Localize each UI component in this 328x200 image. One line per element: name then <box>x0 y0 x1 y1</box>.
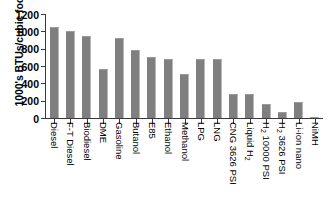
bar-series <box>46 14 323 118</box>
bar <box>66 31 75 118</box>
x-tick-label: Ethanol <box>163 122 173 154</box>
x-label-slot: Butanol <box>127 122 143 198</box>
bar-slot <box>242 14 258 118</box>
bar <box>196 59 205 118</box>
x-label-slot: NiMH <box>307 122 323 198</box>
bar-slot <box>95 14 111 118</box>
x-tick-label: Gasoline <box>115 122 125 160</box>
y-tick-label: 0 <box>33 114 39 125</box>
bar-slot <box>79 14 95 118</box>
bar <box>131 50 140 118</box>
y-tick-label: 400 <box>21 79 39 90</box>
bar <box>245 94 254 118</box>
bar-slot <box>46 14 62 118</box>
y-tick-mark <box>41 66 45 67</box>
x-tick-label: Methanol <box>180 122 190 161</box>
bar-slot <box>160 14 176 118</box>
x-tick-label: Butanol <box>131 122 141 154</box>
y-tick-label: 200 <box>21 96 39 107</box>
bar-slot <box>290 14 306 118</box>
x-label-slot: CNG 3626 PSI <box>225 122 241 198</box>
x-tick-label: E85 <box>147 122 157 139</box>
bar-slot <box>193 14 209 118</box>
bar-slot <box>144 14 160 118</box>
y-tick-mark <box>41 31 45 32</box>
x-label-slot: Ethanol <box>160 122 176 198</box>
bar-slot <box>307 14 323 118</box>
x-label-slot: Gasoline <box>111 122 127 198</box>
x-tick-label: NiMH <box>310 122 320 146</box>
bar-slot <box>209 14 225 118</box>
x-tick-label: H2 3626 PSI <box>278 122 288 175</box>
bar <box>99 69 108 118</box>
x-label-slot: Biodiesel <box>79 122 95 198</box>
x-tick-label: DME <box>98 122 108 143</box>
x-tick-label: LPG <box>196 122 206 141</box>
y-tick-label: 1000 <box>16 27 39 38</box>
y-tick-mark <box>41 49 45 50</box>
x-label-slot: F-T Diesel <box>62 122 78 198</box>
x-label-slot: H2 3626 PSI <box>274 122 290 198</box>
y-tick-mark <box>41 101 45 102</box>
bar <box>278 112 287 118</box>
y-tick-label: 800 <box>21 44 39 55</box>
bar <box>82 36 91 118</box>
x-label-slot: Liquid H2 <box>242 122 258 198</box>
y-tick-label: 1200 <box>16 10 39 21</box>
bar <box>310 117 319 118</box>
x-label-slot: H2 10000 PSI <box>258 122 274 198</box>
bar <box>213 59 222 118</box>
x-tick-label: Diesel <box>49 122 59 148</box>
bar-slot <box>127 14 143 118</box>
x-tick-label: CNG 3626 PSI <box>229 122 239 185</box>
bar-slot <box>274 14 290 118</box>
bar-slot <box>258 14 274 118</box>
y-tick-mark <box>41 118 45 119</box>
x-label-slot: E85 <box>144 122 160 198</box>
bar <box>229 94 238 118</box>
x-tick-label: F-T Diesel <box>66 122 76 166</box>
bar <box>262 104 271 118</box>
bar-slot <box>176 14 192 118</box>
bar-slot <box>111 14 127 118</box>
plot-area: 020040060080010001200 <box>45 14 323 119</box>
x-tick-label: LNG <box>212 122 222 142</box>
y-tick-mark <box>41 83 45 84</box>
bar-chart: 1000's BTUs/cubic foot 02004006008001000… <box>0 0 328 200</box>
bar-slot <box>225 14 241 118</box>
x-label-slot: DME <box>95 122 111 198</box>
bar <box>294 102 303 118</box>
bar <box>50 27 59 118</box>
x-label-slot: Methanol <box>176 122 192 198</box>
y-tick-label: 600 <box>21 62 39 73</box>
bar-slot <box>62 14 78 118</box>
x-tick-label: Li-ion nano <box>294 122 304 169</box>
bar <box>115 38 124 118</box>
x-tick-label: Liquid H2 <box>245 122 255 161</box>
bar <box>164 59 173 118</box>
x-label-slot: Li-ion nano <box>290 122 306 198</box>
y-tick-mark <box>41 14 45 15</box>
x-tick-label: Biodiesel <box>82 122 92 161</box>
x-label-slot: LPG <box>193 122 209 198</box>
x-axis-labels: DieselF-T DieselBiodieselDMEGasolineButa… <box>46 122 323 198</box>
bar <box>147 57 156 118</box>
bar <box>180 74 189 118</box>
x-tick-label: H2 10000 PSI <box>261 122 271 180</box>
x-label-slot: LNG <box>209 122 225 198</box>
x-label-slot: Diesel <box>46 122 62 198</box>
